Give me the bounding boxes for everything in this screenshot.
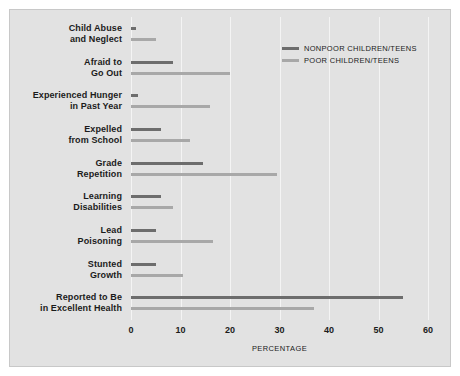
legend-swatch-poor-icon bbox=[282, 59, 299, 62]
x-axis-title: PERCENTAGE bbox=[131, 344, 428, 353]
category-label-line: Lead bbox=[0, 225, 122, 236]
x-axis-ticks: 0102030405060 bbox=[131, 325, 428, 339]
chart-legend: NONPOOR CHILDREN/TEENS POOR CHILDREN/TEE… bbox=[282, 44, 417, 68]
bar-nonpoor bbox=[131, 94, 138, 97]
gridline-20 bbox=[230, 17, 231, 320]
category-label-line: in Excellent Health bbox=[0, 303, 122, 314]
x-tick-label-50: 50 bbox=[373, 325, 383, 335]
x-tick-label-10: 10 bbox=[175, 325, 185, 335]
bar-poor bbox=[131, 72, 230, 75]
legend-item-nonpoor: NONPOOR CHILDREN/TEENS bbox=[282, 44, 417, 53]
bar-poor bbox=[131, 38, 156, 41]
bar-poor bbox=[131, 173, 277, 176]
category-label-line: Growth bbox=[0, 270, 122, 281]
gridline-60 bbox=[428, 17, 429, 320]
bar-poor bbox=[131, 307, 314, 310]
legend-label-nonpoor: NONPOOR CHILDREN/TEENS bbox=[304, 44, 417, 53]
x-tick-label-40: 40 bbox=[324, 325, 334, 335]
category-label-line: in Past Year bbox=[0, 101, 122, 112]
category-label-line: Poisoning bbox=[0, 236, 122, 247]
category-label: Reported to Bein Excellent Health bbox=[0, 292, 122, 314]
bar-nonpoor bbox=[131, 195, 161, 198]
bar-nonpoor bbox=[131, 162, 203, 165]
bar-nonpoor bbox=[131, 263, 156, 266]
bar-nonpoor bbox=[131, 27, 136, 30]
bar-poor bbox=[131, 139, 190, 142]
bar-nonpoor bbox=[131, 61, 173, 64]
legend-label-poor: POOR CHILDREN/TEENS bbox=[304, 56, 399, 65]
category-label: LeadPoisoning bbox=[0, 225, 122, 247]
category-label-line: Stunted bbox=[0, 259, 122, 270]
category-label: LearningDisabilities bbox=[0, 191, 122, 213]
bar-nonpoor bbox=[131, 229, 156, 232]
x-tick-label-60: 60 bbox=[423, 325, 433, 335]
category-label-line: Go Out bbox=[0, 68, 122, 79]
bar-nonpoor bbox=[131, 296, 403, 299]
x-tick-label-30: 30 bbox=[274, 325, 284, 335]
category-label-line: Afraid to bbox=[0, 57, 122, 68]
category-label-line: Learning bbox=[0, 191, 122, 202]
category-label: GradeRepetition bbox=[0, 158, 122, 180]
chart-figure: Child Abuseand NeglectAfraid toGo OutExp… bbox=[0, 0, 460, 376]
category-label-line: Disabilities bbox=[0, 202, 122, 213]
category-label-line: Grade bbox=[0, 158, 122, 169]
gridline-30 bbox=[280, 17, 281, 320]
category-label: Child Abuseand Neglect bbox=[0, 23, 122, 45]
category-label: StuntedGrowth bbox=[0, 259, 122, 281]
bar-poor bbox=[131, 240, 213, 243]
category-label: Experienced Hungerin Past Year bbox=[0, 90, 122, 112]
category-label-line: Expelled bbox=[0, 124, 122, 135]
category-label-line: Reported to Be bbox=[0, 292, 122, 303]
bar-nonpoor bbox=[131, 128, 161, 131]
legend-item-poor: POOR CHILDREN/TEENS bbox=[282, 56, 417, 65]
category-label-line: Repetition bbox=[0, 169, 122, 180]
category-label-line: Child Abuse bbox=[0, 23, 122, 34]
bar-poor bbox=[131, 274, 183, 277]
category-label-line: Experienced Hunger bbox=[0, 90, 122, 101]
category-label: Afraid toGo Out bbox=[0, 57, 122, 79]
category-label-line: and Neglect bbox=[0, 34, 122, 45]
category-label: Expelledfrom School bbox=[0, 124, 122, 146]
x-tick-label-0: 0 bbox=[128, 325, 133, 335]
x-tick-label-20: 20 bbox=[225, 325, 235, 335]
bar-poor bbox=[131, 105, 210, 108]
legend-swatch-nonpoor-icon bbox=[282, 47, 299, 50]
category-label-line: from School bbox=[0, 135, 122, 146]
bar-poor bbox=[131, 206, 173, 209]
